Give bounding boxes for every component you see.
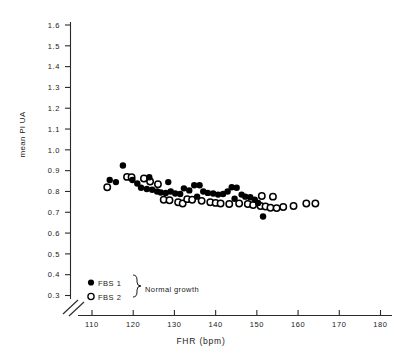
data-point [165, 179, 171, 185]
y-tick-label: 0.4 [48, 270, 60, 279]
series-fbs-1-points [107, 162, 267, 219]
x-tick-label: 130 [167, 320, 181, 329]
data-point [194, 193, 200, 199]
data-point [280, 204, 286, 210]
legend-marker-fbs-1 [88, 279, 94, 285]
data-point [312, 200, 318, 206]
x-tick-label: 140 [208, 320, 222, 329]
data-point [273, 205, 279, 211]
y-tick-label: 1.2 [48, 104, 60, 113]
y-tick-label: 0.7 [48, 208, 60, 217]
y-axis-ticks: 0.30.40.50.60.70.80.91.01.11.21.31.41.51… [48, 21, 71, 301]
data-point [177, 191, 183, 197]
data-point [290, 203, 296, 209]
y-tick-label: 1.5 [48, 42, 60, 51]
plot-canvas: 0.30.40.50.60.70.80.91.01.11.21.31.41.51… [0, 0, 402, 362]
data-point [267, 204, 273, 210]
data-point [104, 184, 110, 190]
data-point [236, 200, 242, 206]
data-point [303, 200, 309, 206]
scatter-plot-figure: mean PI UA FHR (bpm) 0.30.40.50.60.70.80… [0, 0, 402, 362]
data-point [120, 162, 126, 168]
data-point [255, 200, 261, 206]
data-point [259, 193, 265, 199]
axis-break-marks [63, 300, 84, 316]
y-tick-label: 1.1 [48, 125, 60, 134]
data-point [233, 185, 239, 191]
data-point [144, 186, 150, 192]
data-point [138, 185, 144, 191]
data-point [113, 179, 119, 185]
data-point [141, 175, 147, 181]
x-tick-label: 110 [85, 320, 99, 329]
data-point [186, 187, 192, 193]
legend-marker-fbs-2 [88, 293, 94, 299]
y-tick-label: 0.5 [48, 250, 60, 259]
axis-spines [71, 22, 393, 316]
data-point [217, 200, 223, 206]
data-point [231, 196, 237, 202]
y-tick-label: 0.3 [48, 291, 60, 300]
data-point [226, 201, 232, 207]
data-point [270, 193, 276, 199]
y-tick-label: 1.3 [48, 83, 60, 92]
legend-brace-label: Normal growth [145, 285, 199, 294]
x-tick-label: 120 [126, 320, 140, 329]
x-tick-label: 180 [373, 320, 387, 329]
y-tick-label: 1.4 [48, 62, 60, 71]
data-point [107, 177, 113, 183]
y-tick-label: 0.9 [48, 166, 60, 175]
y-tick-label: 1.6 [48, 21, 60, 30]
legend-label-fbs-1: FBS 1 [98, 279, 121, 288]
data-point [260, 213, 266, 219]
y-tick-label: 0.8 [48, 187, 60, 196]
x-tick-label: 170 [332, 320, 346, 329]
x-axis-ticks: 110120130140150160170180 [85, 310, 388, 329]
legend-brace-icon [133, 275, 141, 297]
data-point [146, 174, 152, 180]
x-tick-label: 150 [250, 320, 264, 329]
data-point [196, 182, 202, 188]
data-point [166, 197, 172, 203]
data-point [155, 181, 161, 187]
y-tick-label: 1.0 [48, 146, 60, 155]
chart-legend: FBS 1 FBS 2 Normal growth [88, 275, 199, 302]
x-tick-label: 160 [291, 320, 305, 329]
legend-label-fbs-2: FBS 2 [98, 293, 121, 302]
y-tick-label: 0.6 [48, 229, 60, 238]
